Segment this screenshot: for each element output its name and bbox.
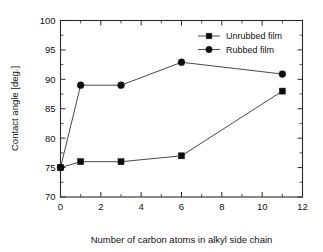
legend-label: Unrubbed film <box>226 31 282 41</box>
y-tick-label: 75 <box>45 162 56 173</box>
data-series <box>58 88 286 170</box>
data-point-square <box>279 88 285 94</box>
series-line <box>61 91 283 167</box>
y-tick-label: 70 <box>45 191 56 202</box>
legend-marker-circle <box>206 46 212 52</box>
y-tick-label: 80 <box>45 133 56 144</box>
x-tick-label: 0 <box>58 201 63 212</box>
y-axis-minor-ticks <box>61 35 303 182</box>
data-point-circle <box>57 164 64 171</box>
series-line <box>61 62 283 167</box>
chart-legend: Unrubbed filmRubbed film <box>198 31 282 55</box>
x-axis-tick-labels: 024681012 <box>58 201 308 212</box>
data-point-square <box>78 159 84 165</box>
data-series <box>57 59 286 171</box>
y-axis-title: Contact angle [deg.] <box>9 66 20 151</box>
y-tick-label: 90 <box>45 74 56 85</box>
data-point-square <box>118 159 124 165</box>
x-axis-title: Number of carbon atoms in alkyl side cha… <box>91 234 273 245</box>
x-tick-label: 2 <box>98 201 103 212</box>
data-series-group <box>57 59 286 171</box>
x-tick-label: 10 <box>257 201 268 212</box>
y-tick-label: 100 <box>40 15 56 26</box>
y-axis-tick-labels: 707580859095100 <box>40 15 56 203</box>
data-point-circle <box>178 59 185 66</box>
chart-figure: 024681012 707580859095100 Unrubbed filmR… <box>0 0 323 252</box>
contact-angle-line-chart: 024681012 707580859095100 Unrubbed filmR… <box>0 0 323 252</box>
y-tick-label: 85 <box>45 103 56 114</box>
x-tick-label: 4 <box>139 201 144 212</box>
x-tick-label: 8 <box>219 201 224 212</box>
data-point-circle <box>118 82 125 89</box>
data-point-square <box>179 153 185 159</box>
x-tick-label: 12 <box>297 201 308 212</box>
legend-marker-square <box>206 33 212 39</box>
x-tick-label: 6 <box>179 201 184 212</box>
data-point-circle <box>77 82 84 89</box>
data-point-circle <box>279 71 286 78</box>
y-tick-label: 95 <box>45 44 56 55</box>
legend-label: Rubbed film <box>226 45 274 55</box>
